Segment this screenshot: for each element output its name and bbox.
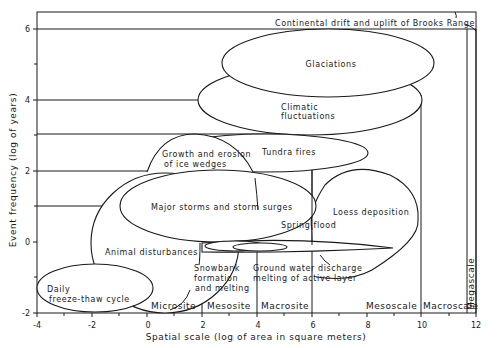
x-tick-10: 10: [417, 321, 427, 330]
x-tick-0: 0: [145, 321, 150, 330]
label-climatic-1: Climatic: [281, 103, 318, 112]
x-tick-neg2: -2: [88, 321, 96, 330]
label-continental-drift: Continental drift and uplift of Brooks R…: [275, 19, 475, 28]
scale-megascale: Megascale: [466, 258, 476, 310]
y-tick-2: 2: [25, 167, 30, 176]
label-loess: Loess deposition: [333, 208, 409, 217]
label-spring-flood: Spring flood: [281, 221, 336, 230]
label-groundwater-2: melting of active layer: [253, 274, 357, 283]
y-axis-label: Event frequency (log of years): [8, 93, 18, 248]
label-tundra-fires: Tundra fires: [261, 148, 316, 157]
label-climatic-2: fluctuations: [281, 112, 335, 121]
x-axis: -4 -2 0 2 4 6 8 10 12: [33, 313, 481, 330]
x-tick-neg4: -4: [33, 321, 41, 330]
label-snowbank-3: and melting: [195, 284, 250, 293]
active-layer-inner-shape: [233, 243, 287, 251]
label-snowbank-1: Snowbank: [194, 264, 240, 273]
scale-mesosite: Mesosite: [207, 301, 251, 311]
x-axis-label: Spatial scale (log of area in square met…: [146, 332, 367, 342]
x-tick-6: 6: [310, 321, 315, 330]
y-axis: 6 4 2 0 -2: [22, 25, 37, 318]
label-groundwater-1: Ground water discharge: [253, 264, 363, 273]
x-tick-8: 8: [365, 321, 370, 330]
label-animal: Animal disturbances: [105, 248, 198, 257]
y-tick-neg2: -2: [22, 309, 30, 318]
x-tick-4: 4: [255, 321, 260, 330]
scale-microsite: Microsite: [151, 301, 196, 311]
continental-drift-arc: [455, 12, 456, 18]
scale-macrosite: Macrosite: [261, 301, 309, 311]
label-daily-2: freeze-thaw cycle: [49, 295, 130, 304]
x-tick-12: 12: [471, 321, 481, 330]
x-tick-2: 2: [200, 321, 205, 330]
label-major-storms: Major storms and storm surges: [151, 203, 293, 212]
y-tick-0: 0: [25, 238, 30, 247]
y-tick-4: 4: [25, 96, 30, 105]
label-glaciations: Glaciations: [306, 60, 357, 69]
label-snowbank-2: formation: [194, 274, 238, 283]
label-ice-wedges-1: Growth and erosion: [162, 150, 251, 159]
label-ice-wedges-2: of ice wedges: [164, 160, 227, 169]
scale-mesoscale: Mesoscale: [366, 301, 417, 311]
spatial-temporal-scale-diagram: Continental drift and uplift of Brooks R…: [0, 0, 497, 348]
label-daily-1: Daily: [47, 285, 70, 294]
y-tick-6: 6: [25, 25, 30, 34]
